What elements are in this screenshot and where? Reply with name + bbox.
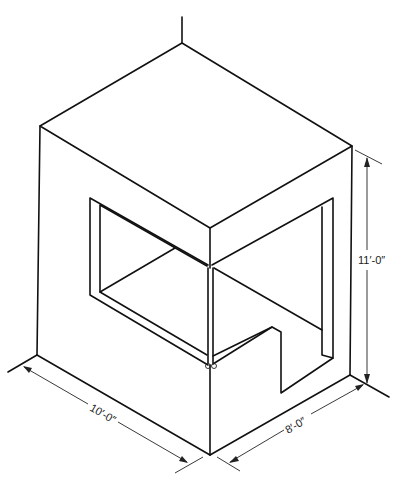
counter-notch-top — [213, 327, 272, 356]
left-dim-line-a — [24, 367, 88, 404]
counter-notch — [213, 327, 333, 393]
left-dim-arrow-end — [179, 456, 188, 463]
left-dim-arrow-start — [23, 366, 32, 373]
isometric-booth-drawing: 11′-0″ 10′-0″ 8′-0″ — [0, 0, 404, 486]
right-dim-arrow-end — [355, 384, 364, 391]
left-window-outer — [90, 198, 208, 365]
left-vertical-edge — [37, 126, 40, 355]
right-dim-line-a — [230, 430, 284, 462]
height-dim-ext-top — [355, 150, 382, 164]
left-dim-ext-bottom — [175, 457, 203, 473]
left-window-floor-back — [100, 248, 175, 292]
height-dimension-label: 11′-0″ — [358, 254, 385, 266]
width-right-dimension-label: 8′-0″ — [283, 414, 308, 435]
left-dim-line-b — [118, 422, 187, 462]
left-bottom-edge — [37, 355, 210, 455]
left-ground-extension — [8, 355, 37, 372]
width-left-dimension-label: 10′-0″ — [88, 401, 118, 425]
right-bottom-edge — [210, 375, 350, 455]
right-window-back-edge — [214, 268, 322, 330]
height-arrow-top — [364, 157, 370, 167]
right-dim-line-b — [311, 385, 363, 414]
right-window-inner — [322, 207, 333, 358]
top-face — [40, 43, 352, 228]
right-vertical-edge — [350, 146, 352, 375]
